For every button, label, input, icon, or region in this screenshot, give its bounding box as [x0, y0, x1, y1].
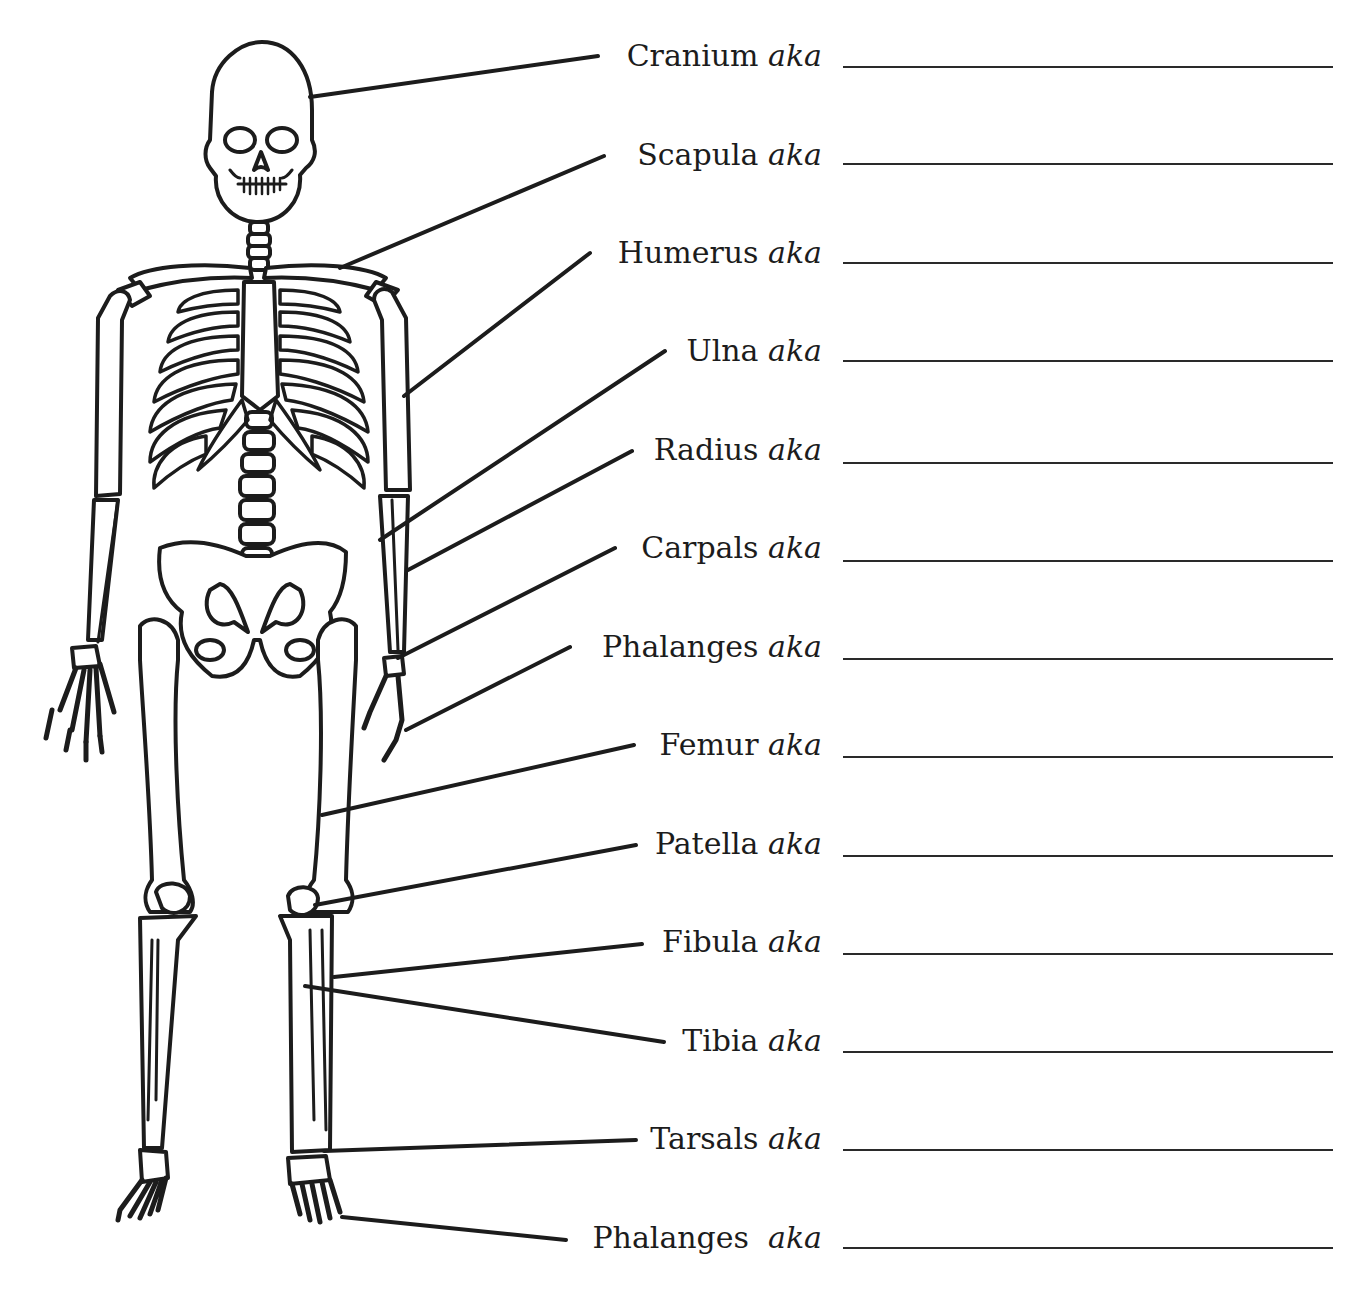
cervical-spine-drawing	[248, 222, 270, 270]
aka-text: aka	[768, 727, 822, 762]
patella-leader-line	[315, 845, 636, 905]
lumbar-spine-drawing	[240, 412, 274, 566]
aka-text: aka	[768, 826, 822, 861]
tarsals-answer-blank[interactable]	[843, 1149, 1333, 1151]
ulna-answer-blank[interactable]	[843, 360, 1333, 362]
tarsals-leader-line	[324, 1140, 636, 1151]
left-leg-drawing	[118, 619, 196, 1220]
tarsals-label: Tarsals aka	[650, 1122, 822, 1156]
tibia-label: Tibia aka	[682, 1024, 822, 1058]
phalanges-answer-blank[interactable]	[843, 658, 1333, 660]
aka-text: aka	[768, 1121, 822, 1156]
radius-leader-line	[408, 451, 632, 570]
aka-text: aka	[768, 333, 822, 368]
bone-name: Scapula	[637, 137, 758, 172]
bone-name: Radius	[654, 432, 759, 467]
femur-leader-line	[322, 745, 634, 815]
humerus-answer-blank[interactable]	[843, 262, 1333, 264]
right-leg-drawing	[280, 619, 356, 1222]
aka-text: aka	[768, 432, 822, 467]
cranium-answer-blank[interactable]	[843, 66, 1333, 68]
fibula-leader-line	[334, 944, 642, 977]
humerus-label: Humerus aka	[618, 236, 822, 270]
aka-text: aka	[768, 629, 822, 664]
phalanges-leader-line	[406, 647, 570, 730]
cranium-leader-line	[310, 56, 598, 97]
bone-name: Femur	[659, 727, 758, 762]
humerus-leader-line	[404, 253, 590, 396]
bone-name: Cranium	[627, 38, 759, 73]
femur-answer-blank[interactable]	[843, 756, 1333, 758]
radius-label: Radius aka	[654, 433, 822, 467]
bone-name: Patella	[655, 826, 759, 861]
ulna-label: Ulna aka	[686, 334, 822, 368]
patella-label: Patella aka	[655, 827, 822, 861]
tibia-answer-blank[interactable]	[843, 1051, 1333, 1053]
scapula-label: Scapula aka	[637, 138, 822, 172]
aka-text: aka	[768, 137, 822, 172]
aka-text: aka	[768, 924, 822, 959]
carpals-answer-blank[interactable]	[843, 560, 1333, 562]
femur-label: Femur aka	[659, 728, 822, 762]
sternum-drawing	[242, 282, 278, 410]
aka-text: aka	[768, 1220, 822, 1255]
aka-text: aka	[768, 235, 822, 270]
fibula-answer-blank[interactable]	[843, 953, 1333, 955]
patella-answer-blank[interactable]	[843, 855, 1333, 857]
aka-text: aka	[768, 1023, 822, 1058]
phalanges-label: Phalanges aka	[602, 630, 822, 664]
scapula-answer-blank[interactable]	[843, 163, 1333, 165]
phalanges-label: Phalanges aka	[592, 1221, 822, 1255]
carpals-label: Carpals aka	[641, 531, 822, 565]
bone-name: Phalanges	[592, 1220, 749, 1255]
bone-name: Tibia	[682, 1023, 758, 1058]
fibula-label: Fibula aka	[662, 925, 822, 959]
skeleton-worksheet: Cranium akaScapula akaHumerus akaUlna ak…	[0, 0, 1369, 1290]
carpals-leader-line	[398, 548, 615, 658]
bone-name: Carpals	[641, 530, 758, 565]
bone-name: Humerus	[618, 235, 759, 270]
aka-text: aka	[768, 530, 822, 565]
phalanges-leader-line	[342, 1217, 566, 1240]
scapula-leader-line	[340, 156, 604, 268]
bone-name: Ulna	[686, 333, 758, 368]
bone-name: Phalanges	[602, 629, 759, 664]
tibia-leader-line	[305, 986, 664, 1042]
phalanges-answer-blank[interactable]	[843, 1247, 1333, 1249]
bone-name: Fibula	[662, 924, 758, 959]
radius-answer-blank[interactable]	[843, 462, 1333, 464]
cranium-label: Cranium aka	[627, 39, 822, 73]
left-arm-drawing	[46, 291, 130, 760]
aka-text: aka	[768, 38, 822, 73]
skull-drawing	[206, 42, 315, 222]
bone-name: Tarsals	[650, 1121, 758, 1156]
